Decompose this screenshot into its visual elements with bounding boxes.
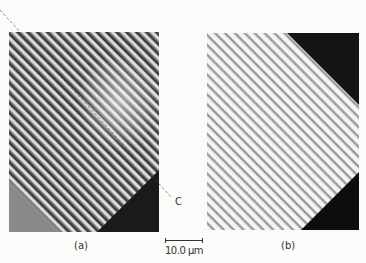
annotation-label-c: C bbox=[175, 196, 182, 207]
scale-bar bbox=[165, 240, 203, 241]
annotation-line-c bbox=[0, 0, 366, 263]
scale-bar-label: 10.0 μm bbox=[165, 245, 203, 256]
panel-label-a: (a) bbox=[74, 240, 88, 251]
panel-label-b: (b) bbox=[281, 240, 295, 251]
